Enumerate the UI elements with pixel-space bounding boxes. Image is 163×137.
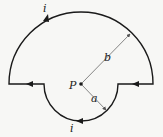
outer-radius-label: b [104,51,111,64]
point-label: P [68,79,77,92]
current-arrow-top-icon [43,14,49,22]
current-arrow-right-icon [132,81,139,87]
current-label-bottom: i [70,122,74,135]
current-loop-diagram: i i P b a [0,0,163,137]
inner-radius-label: a [91,92,98,105]
current-arrow-left-icon [26,81,33,87]
current-arrow-bottom-icon [76,118,83,124]
wire-loop [9,12,153,121]
current-label-top: i [43,2,47,15]
